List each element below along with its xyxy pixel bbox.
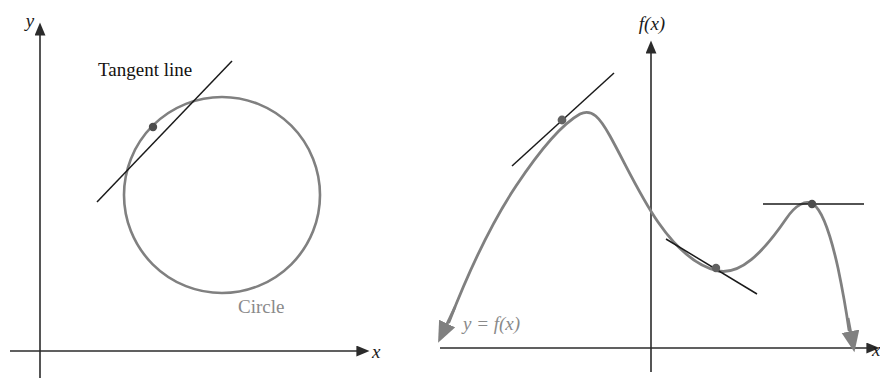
- figure-root: y x Tangent line Circle f(x) x: [0, 0, 880, 391]
- function-panel: f(x) x y = f(x): [440, 13, 880, 372]
- circle-tangency-point: [149, 123, 157, 131]
- curve-left-tail-arrow: [446, 307, 455, 326]
- left-x-axis-label: x: [371, 341, 381, 362]
- right-y-axis-label: f(x): [639, 13, 665, 35]
- left-y-axis-label: y: [24, 10, 35, 31]
- tangency-point-increasing: [558, 116, 567, 125]
- function-curve: [449, 112, 849, 330]
- right-x-axis-label: x: [871, 339, 880, 360]
- circle-tangent-line: [97, 61, 232, 202]
- circle-label: Circle: [238, 296, 284, 317]
- tangency-point-local-max: [808, 200, 816, 208]
- tangent-lines-figure: y x Tangent line Circle f(x) x: [0, 0, 880, 391]
- tangency-point-decreasing: [712, 264, 720, 272]
- circle-panel: y x Tangent line Circle: [10, 10, 381, 378]
- function-curve-label: y = f(x): [461, 313, 520, 335]
- tangent-line-label: Tangent line: [98, 59, 192, 80]
- curve-right-tail-arrow: [848, 318, 851, 334]
